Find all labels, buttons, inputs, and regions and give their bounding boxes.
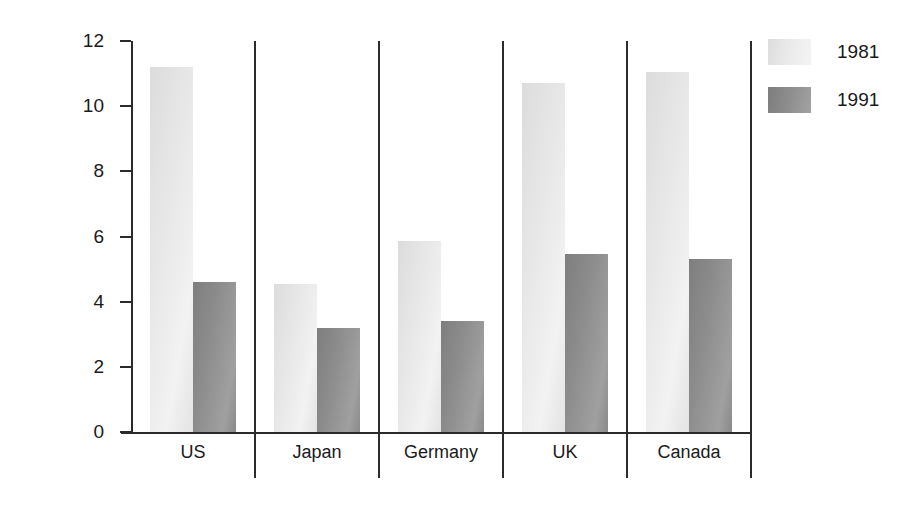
bar-us-1981 [150, 67, 193, 432]
category-label-japan: Japan [255, 442, 379, 463]
bar-us-1991 [193, 282, 236, 432]
y-tick-mark: 0 [120, 431, 131, 433]
category-separator-line [750, 41, 752, 478]
category-separator-line [378, 41, 380, 478]
legend-item-1981: 1981 [768, 38, 879, 66]
category-label-us: US [131, 442, 255, 463]
category-separator-line [502, 41, 504, 478]
category-separator-line [254, 41, 256, 478]
plot-area: 024681012 [131, 41, 751, 432]
bar-canada-1991 [689, 259, 732, 432]
y-tick-mark: 12 [120, 40, 131, 42]
bar-uk-1991 [565, 254, 608, 432]
y-tick-label: 8 [93, 160, 104, 182]
legend-label-1981: 1981 [837, 41, 879, 63]
bar-canada-1981 [646, 72, 689, 432]
bar-uk-1981 [522, 83, 565, 432]
y-tick-label: 0 [93, 421, 104, 443]
bar-japan-1981 [274, 284, 317, 432]
legend-item-1991: 1991 [768, 86, 879, 114]
y-tick-label: 12 [83, 30, 104, 52]
y-tick-label: 4 [93, 290, 104, 312]
category-label-canada: Canada [627, 442, 751, 463]
y-tick-label: 10 [83, 95, 104, 117]
legend-swatch-1981-icon [768, 39, 811, 65]
y-tick-mark: 8 [120, 170, 131, 172]
y-tick-label: 2 [93, 355, 104, 377]
inflation-rate-bar-chart: Inflation Rate 024681012 USJapanGermanyU… [0, 0, 919, 522]
category-separator-line [626, 41, 628, 478]
y-tick-mark: 6 [120, 236, 131, 238]
y-tick-mark: 2 [120, 366, 131, 368]
bar-germany-1991 [441, 321, 484, 432]
legend-label-1991: 1991 [837, 89, 879, 111]
y-axis-line [131, 41, 133, 432]
y-tick-label: 6 [93, 225, 104, 247]
y-tick-mark: 10 [120, 105, 131, 107]
legend-swatch-1991-icon [768, 87, 811, 113]
x-axis-category-labels: USJapanGermanyUKCanada [131, 434, 753, 480]
bar-germany-1981 [398, 241, 441, 432]
y-tick-mark: 4 [120, 301, 131, 303]
category-label-germany: Germany [379, 442, 503, 463]
bar-japan-1991 [317, 328, 360, 432]
category-label-uk: UK [503, 442, 627, 463]
chart-legend: 1981 1991 [768, 38, 879, 134]
